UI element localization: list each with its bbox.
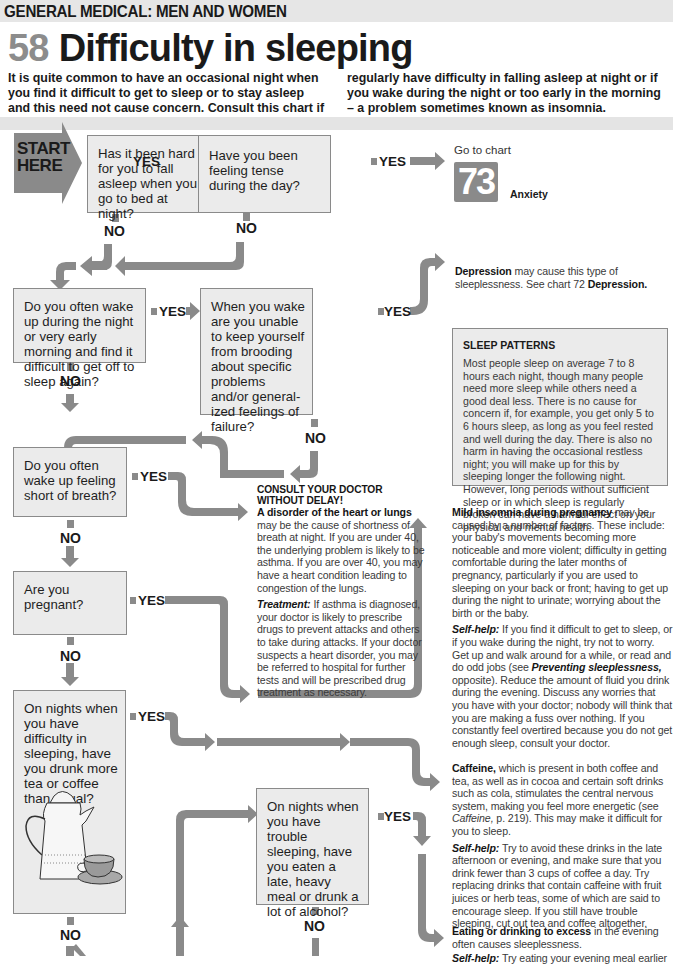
outcome-doctor: CONSULT YOUR DOCTOR WITHOUT DELAY! A dis… [257,484,427,703]
yes-arrow-6 [165,596,250,703]
loop-up-arrow [171,916,189,956]
no-label: NO [104,223,125,239]
yes-arrow-5 [168,472,248,521]
no-arrow-q1 [80,244,112,276]
no-label: NO [60,927,81,943]
question-tense[interactable]: Have you been feeling tense during the d… [198,135,331,213]
question-short-of-breath[interactable]: Do you often wake up feeling short of br… [13,447,127,517]
yes-label: YES [138,709,165,724]
outcome-depression: Depression may cause this type of sleepl… [455,265,673,290]
sleep-patterns-box: SLEEP PATTERNS Most people sleep on aver… [452,328,668,486]
no-label: NO [60,530,81,546]
no-label: NO [60,648,81,664]
goto-chart-number[interactable]: 73 [454,162,498,202]
no-arrow-q2 [115,242,244,276]
yes-label: YES [159,304,186,319]
question-fall-asleep[interactable]: Has it been hard for you to fall asleep … [87,135,208,213]
no-arrow-q4 [290,451,318,483]
question-pregnant[interactable]: Are you pregnant? [13,571,127,635]
no-label: NO [236,220,257,236]
outcome-pregnancy: Mild insomnia during pregnancy may be ca… [452,506,673,753]
yes-label: YES [384,304,411,319]
yes-arrow-4 [410,253,445,315]
no-label: NO [305,430,326,446]
yes-label: YES [384,809,411,824]
question-wake-early[interactable]: Do you often wake up during the night or… [13,288,146,363]
goto-chart-title: Anxiety [510,188,548,200]
yes-label: YES [140,469,167,484]
yes-arrow-3 [186,302,200,320]
yes-arrow-7 [165,712,215,751]
yes-arrow-8 [413,812,431,846]
yes-label: YES [379,154,406,169]
sleep-patterns-title: SLEEP PATTERNS [463,339,657,351]
question-tea-coffee[interactable]: On nights when you have difficulty in sl… [13,690,126,914]
start-here-label: STARTHERE [17,140,70,174]
question-brooding[interactable]: When you wake are you unable to keep you… [200,288,313,415]
outcome-excess: Eating or drinking to excess in the even… [452,925,673,968]
outcome-caffeine: Caffeine, which is present in both coffe… [452,762,673,934]
yes-label: YES [133,154,160,169]
yes-arrow-2 [410,152,445,170]
yes-label: YES [138,593,165,608]
question-heavy-meal[interactable]: On nights when you have trouble sleeping… [256,788,369,905]
goto-chart-label: Go to chart [454,144,511,156]
coffee-pot-and-cup-icon [14,781,124,891]
no-label: NO [304,918,325,934]
no-label: NO [60,373,81,389]
